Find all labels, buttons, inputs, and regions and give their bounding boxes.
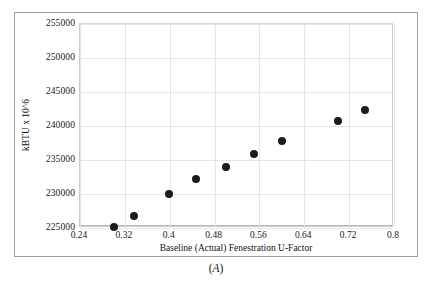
x-tick-label: 0.48 bbox=[205, 230, 222, 240]
plot-wrapper: 2250002300002350002400002450002500002550… bbox=[15, 13, 419, 258]
x-tick-label: 0.4 bbox=[163, 230, 175, 240]
figure-root: 2250002300002350002400002450002500002550… bbox=[0, 0, 432, 292]
data-point bbox=[130, 212, 138, 220]
plot-area bbox=[79, 23, 393, 227]
gridline-horizontal bbox=[80, 160, 392, 161]
caption-letter: A bbox=[212, 262, 219, 274]
gridline-horizontal bbox=[80, 126, 392, 127]
x-tick-label: 0.24 bbox=[71, 230, 88, 240]
data-point bbox=[192, 175, 200, 183]
y-tick-label: 240000 bbox=[46, 120, 75, 130]
x-tick-label: 0.8 bbox=[387, 230, 399, 240]
x-axis-line bbox=[80, 225, 392, 226]
figure-caption: (A) bbox=[0, 262, 432, 274]
gridline-vertical bbox=[394, 24, 395, 226]
x-tick-label: 0.32 bbox=[116, 230, 133, 240]
caption-suffix: ) bbox=[220, 262, 224, 274]
x-tick-label: 0.56 bbox=[250, 230, 267, 240]
y-tick-label: 230000 bbox=[46, 188, 75, 198]
y-tick-label: 255000 bbox=[46, 18, 75, 28]
gridline-horizontal bbox=[80, 92, 392, 93]
gridline-horizontal bbox=[80, 58, 392, 59]
gridline-vertical bbox=[349, 24, 350, 226]
x-tick-label: 0.64 bbox=[295, 230, 312, 240]
data-point bbox=[361, 106, 369, 114]
data-point bbox=[278, 137, 286, 145]
x-axis-tick-labels: 0.240.320.40.480.560.640.720.8 bbox=[79, 230, 393, 244]
gridline-vertical bbox=[80, 24, 81, 226]
x-tick-label: 0.72 bbox=[340, 230, 357, 240]
data-point bbox=[222, 163, 230, 171]
gridline-horizontal bbox=[80, 228, 392, 229]
gridline-vertical bbox=[215, 24, 216, 226]
figure-frame: 2250002300002350002400002450002500002550… bbox=[14, 12, 418, 257]
y-tick-label: 245000 bbox=[46, 86, 75, 96]
gridline-horizontal bbox=[80, 24, 392, 25]
x-axis-title: Baseline (Actual) Fenestration U-Factor bbox=[79, 243, 393, 253]
y-tick-label: 250000 bbox=[46, 52, 75, 62]
gridline-vertical bbox=[125, 24, 126, 226]
gridline-vertical bbox=[304, 24, 305, 226]
data-point bbox=[334, 117, 342, 125]
gridline-vertical bbox=[259, 24, 260, 226]
data-point bbox=[165, 190, 173, 198]
y-axis-title: kBTU x 10^6 bbox=[21, 23, 35, 227]
data-point bbox=[250, 150, 258, 158]
gridline-horizontal bbox=[80, 194, 392, 195]
y-tick-label: 235000 bbox=[46, 154, 75, 164]
